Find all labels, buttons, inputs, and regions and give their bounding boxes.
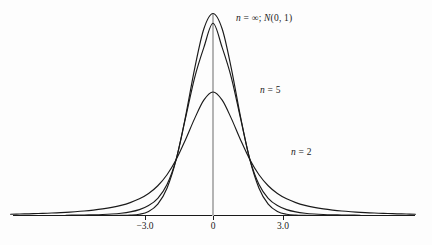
t-distribution-figure: n = ∞; N(0, 1) n = 5 n = 2 −3.0 0 3.0 — [0, 0, 432, 245]
x-tick-label-neg3: −3.0 — [136, 222, 153, 232]
annotation-n2-rest: = 2 — [296, 147, 312, 157]
axes-layer — [13, 14, 415, 220]
annotation-n5: n = 5 — [260, 86, 281, 96]
annotation-normal-args: (0, 1) — [271, 13, 293, 23]
x-tick-label-pos3: 3.0 — [277, 222, 289, 232]
plot-canvas — [0, 0, 432, 245]
annotation-n5-rest: = 5 — [265, 85, 281, 95]
annotation-normal: n = ∞; N(0, 1) — [236, 14, 292, 24]
annotation-normal-rest: = ∞; — [241, 13, 264, 23]
x-tick-label-zero: 0 — [211, 222, 216, 232]
annotation-n2: n = 2 — [291, 148, 312, 158]
